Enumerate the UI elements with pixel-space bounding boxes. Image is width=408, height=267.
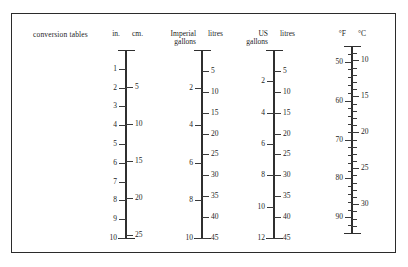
tick-left	[119, 125, 126, 126]
tick-label-left: 8	[113, 196, 117, 204]
tick-right	[202, 134, 209, 135]
minor-tick	[352, 89, 357, 90]
tick-right	[352, 168, 359, 169]
tick-left	[195, 163, 202, 164]
tick-label-right: 30	[361, 200, 369, 208]
tick-label-right: 20	[283, 130, 291, 138]
tick-label-left: 5	[113, 140, 117, 148]
tick-label-right: 15	[135, 157, 143, 165]
tick-label-left: 7	[113, 178, 117, 186]
minor-tick	[352, 219, 357, 220]
minor-tick	[352, 53, 357, 54]
tick-label-right: 35	[211, 192, 219, 200]
tick-left	[267, 113, 274, 114]
tick-right	[202, 217, 209, 218]
tick-label-right: 25	[211, 150, 219, 158]
scale-heading-left: Imperialgallons	[171, 30, 196, 47]
scale-heading-left: USgallons	[246, 30, 268, 47]
tick-label-left: 90	[336, 213, 344, 221]
tick-label-right: 30	[211, 171, 219, 179]
tick-left	[119, 144, 126, 145]
tick-label-right: 30	[283, 171, 291, 179]
minor-tick	[352, 211, 357, 212]
tick-left	[345, 101, 352, 102]
minor-tick	[352, 111, 357, 112]
tick-label-right: 10	[211, 88, 219, 96]
tick-label-right: 20	[361, 128, 369, 136]
tick-right	[202, 196, 209, 197]
tick-label-left: 60	[336, 97, 344, 105]
tick-label-left: 4	[261, 109, 265, 117]
tick-left	[119, 182, 126, 183]
conversion-tables-figure: conversion tables 12345678910510152025in…	[0, 0, 408, 267]
tick-right	[274, 217, 281, 218]
minor-tick	[352, 197, 357, 198]
minor-tick	[348, 69, 353, 70]
tick-label-right: 45	[283, 234, 291, 242]
tick-left	[195, 238, 202, 239]
tick-right	[202, 92, 209, 93]
tick-right	[274, 196, 281, 197]
tick-left	[195, 125, 202, 126]
tick-label-left: 2	[261, 77, 265, 85]
tick-label-left: 10	[258, 203, 266, 211]
tick-right	[126, 235, 133, 236]
tick-right	[352, 132, 359, 133]
minor-tick	[348, 202, 353, 203]
tick-right	[352, 204, 359, 205]
tick-label-left: 10	[186, 234, 194, 242]
minor-tick	[348, 108, 353, 109]
scale-heading-right: litres	[280, 30, 295, 38]
scale-end-bottom	[344, 233, 361, 234]
tick-label-left: 6	[113, 159, 117, 167]
minor-tick	[352, 175, 357, 176]
tick-left	[119, 200, 126, 201]
tick-left	[267, 175, 274, 176]
minor-tick	[352, 75, 357, 76]
minor-tick	[352, 147, 357, 148]
tick-left	[195, 88, 202, 89]
tick-label-right: 25	[283, 150, 291, 158]
tick-left	[267, 238, 274, 239]
tick-right	[202, 113, 209, 114]
scale-end-top	[344, 46, 361, 47]
tick-label-left: 1	[113, 65, 117, 73]
minor-tick	[352, 154, 357, 155]
tick-right	[202, 175, 209, 176]
tick-right	[126, 161, 133, 162]
tick-left	[345, 217, 352, 218]
tick-label-left: 3	[113, 102, 117, 110]
tick-label-left: 4	[189, 121, 193, 129]
tick-right	[352, 96, 359, 97]
minor-tick	[352, 140, 357, 141]
tick-label-right: 15	[211, 109, 219, 117]
minor-tick	[352, 118, 357, 119]
scale-heading-right: litres	[208, 30, 223, 38]
tick-label-right: 10	[135, 120, 143, 128]
tick-right	[202, 71, 209, 72]
tick-label-right: 35	[283, 192, 291, 200]
tick-label-left: 6	[261, 140, 265, 148]
minor-tick	[348, 186, 353, 187]
tick-label-right: 20	[135, 194, 143, 202]
tick-label-right: 40	[211, 213, 219, 221]
scale-heading-left: in.	[112, 30, 120, 38]
scale-end-top	[266, 50, 283, 51]
tick-left	[345, 140, 352, 141]
tick-label-left: 6	[189, 159, 193, 167]
minor-tick	[352, 104, 357, 105]
tick-left	[119, 69, 126, 70]
tick-left	[267, 144, 274, 145]
minor-tick	[348, 171, 353, 172]
scale-end-top	[118, 50, 135, 51]
tick-label-right: 15	[283, 109, 291, 117]
minor-tick	[348, 155, 353, 156]
tick-right	[352, 60, 359, 61]
tick-left	[119, 163, 126, 164]
tick-label-right: 20	[211, 130, 219, 138]
minor-tick	[352, 226, 357, 227]
scale-heading-right: °C	[358, 30, 366, 38]
minor-tick	[352, 161, 357, 162]
minor-tick	[348, 77, 353, 78]
tick-label-left: 70	[336, 136, 344, 144]
